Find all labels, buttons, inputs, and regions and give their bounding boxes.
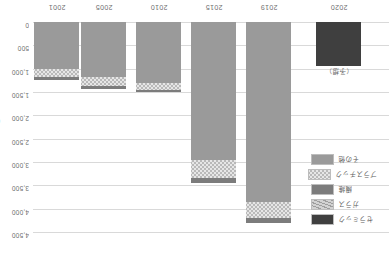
bar-segment-plastic bbox=[34, 69, 79, 77]
forecast-note: （予想） bbox=[304, 67, 374, 77]
bar-segment-seni bbox=[81, 86, 126, 89]
x-label-2015: 2015 bbox=[184, 4, 244, 11]
legend-swatch-ceramic bbox=[311, 214, 334, 225]
chart-legend: その他 プラスチック 繊維 ガラス セラミック bbox=[311, 152, 377, 227]
bar-segment-seni bbox=[136, 90, 181, 93]
stacked-bar-chart: 0 500 1,000 1,500 2,000 2,500 3,000 3,50… bbox=[0, 0, 389, 255]
bar-segment-plastic bbox=[246, 202, 291, 218]
bar-segment-sonota bbox=[246, 22, 291, 202]
legend-label: プラスチック bbox=[331, 170, 377, 180]
bar-segment-plastic bbox=[191, 160, 236, 178]
bar-segment-plastic bbox=[81, 77, 126, 86]
y-tick-label: 1,500 bbox=[12, 92, 29, 99]
y-tick-label: 2,500 bbox=[12, 139, 29, 146]
legend-label: その他 bbox=[334, 155, 377, 165]
y-tick-label: 500 bbox=[18, 45, 29, 52]
bar-2019 bbox=[246, 22, 291, 223]
y-tick-label: 1,000 bbox=[12, 69, 29, 76]
legend-label: ガラス bbox=[334, 200, 377, 210]
bar-segment-sonota bbox=[34, 22, 79, 69]
y-tick-label: 3,500 bbox=[12, 185, 29, 192]
bar-2015 bbox=[191, 22, 236, 183]
legend-item-ceramic: セラミック bbox=[311, 212, 377, 227]
legend-label: セラミック bbox=[334, 215, 377, 225]
bar-segment-sonota bbox=[81, 22, 126, 77]
bar-segment-seni bbox=[34, 77, 79, 80]
y-axis-title: （万個） bbox=[0, 117, 4, 126]
bar-segment-seni bbox=[246, 218, 291, 223]
gridline-4500 bbox=[33, 232, 389, 233]
legend-item-seni: 繊維 bbox=[311, 182, 377, 197]
y-tick-label: 2,000 bbox=[12, 115, 29, 122]
legend-label: 繊維 bbox=[334, 185, 377, 195]
legend-swatch-plastic bbox=[308, 169, 331, 180]
y-tick-label: 4,000 bbox=[12, 209, 29, 216]
bar-2010 bbox=[136, 22, 181, 93]
legend-item-sonota: その他 bbox=[311, 152, 377, 167]
x-label-2010: 2010 bbox=[129, 4, 189, 11]
y-tick-label: 0 bbox=[25, 22, 29, 29]
legend-swatch-sonota bbox=[311, 154, 334, 165]
legend-swatch-glass bbox=[311, 199, 334, 210]
legend-item-glass: ガラス bbox=[311, 197, 377, 212]
bar-segment-ceramic bbox=[316, 22, 361, 66]
bar-segment-sonota bbox=[191, 22, 236, 160]
bar-2005 bbox=[81, 22, 126, 89]
bar-2020 bbox=[316, 22, 361, 66]
legend-swatch-seni bbox=[311, 184, 334, 195]
x-label-2020: 2020 bbox=[309, 4, 369, 11]
y-tick-label: 4,500 bbox=[12, 232, 29, 239]
x-label-2001: 2001 bbox=[27, 4, 87, 11]
legend-item-plastic: プラスチック bbox=[311, 167, 377, 182]
y-tick-label: 3,000 bbox=[12, 162, 29, 169]
bar-segment-sonota bbox=[136, 22, 181, 83]
x-label-2019: 2019 bbox=[239, 4, 299, 11]
bar-2001 bbox=[34, 22, 79, 80]
bar-segment-seni bbox=[191, 178, 236, 183]
